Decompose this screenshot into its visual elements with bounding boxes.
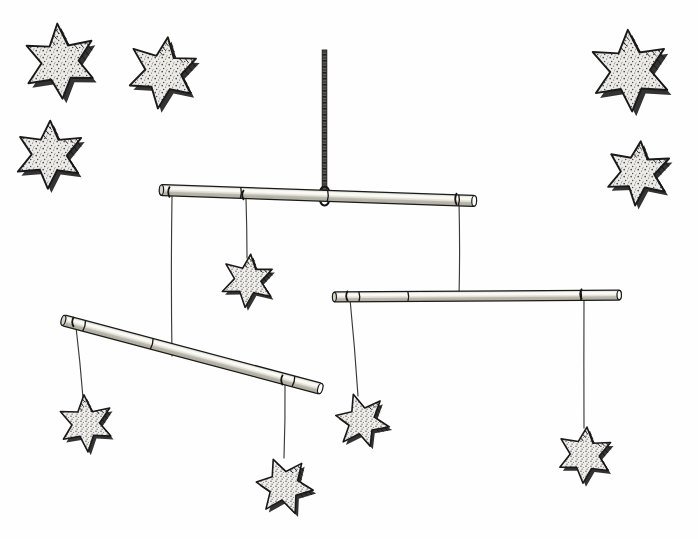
star-hang-lower-left — [60, 395, 113, 455]
vertical-hanging-cord — [322, 50, 327, 200]
illustration-canvas — [0, 0, 698, 539]
star-hang-bottom-mid — [256, 459, 316, 517]
rod-top — [159, 184, 477, 206]
thread-top-left — [171, 196, 172, 356]
star-float-upper-left-1 — [27, 24, 97, 104]
star-mobile-drawing — [0, 0, 698, 539]
rod-middle-right — [332, 290, 621, 302]
rod-end-left — [159, 185, 164, 195]
floating-star-layer — [18, 24, 673, 210]
star-face — [336, 394, 390, 446]
star-float-upper-right-1 — [593, 30, 672, 116]
rod-end-left — [332, 292, 336, 301]
thread-diag-right — [284, 382, 285, 458]
thread-diag-left — [76, 327, 83, 398]
rod-end-right — [617, 290, 621, 299]
star-float-upper-left-3 — [18, 121, 85, 193]
star-float-upper-right-2 — [608, 141, 672, 209]
thread-layer — [76, 196, 584, 458]
thread-mid-left — [350, 299, 358, 396]
thread-top-right — [459, 202, 460, 297]
rod-lower-left-diagonal — [60, 314, 324, 394]
star-hang-mid-left — [336, 394, 392, 449]
rod-layer — [60, 184, 622, 394]
star-hang-mid-right — [560, 427, 614, 487]
rod-shadow — [65, 322, 317, 392]
hanging-cord-group — [319, 50, 330, 206]
star-float-upper-left-2 — [130, 37, 200, 112]
star-face — [256, 459, 313, 513]
thread-top-star — [246, 199, 247, 258]
rod-highlight — [67, 318, 317, 387]
star-hang-center-top — [222, 254, 275, 310]
rod-end-right — [472, 196, 477, 207]
thread-tie-knots — [72, 187, 582, 386]
